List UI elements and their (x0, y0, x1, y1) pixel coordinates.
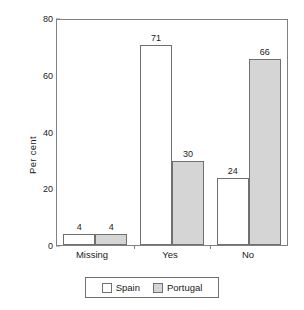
x-axis-label-yes: Yes (162, 250, 178, 260)
bar-yes-portugal: 30 (172, 161, 204, 245)
y-axis-tick-80: 80 (43, 15, 56, 24)
bar-value-no-spain: 24 (228, 167, 238, 176)
x-axis-separator-tick (134, 245, 135, 249)
y-axis-tick-label-40: 40 (43, 128, 56, 137)
bar-yes-spain: 71 (140, 45, 172, 245)
plot-area: 4471302466 (56, 19, 288, 246)
x-axis-label-missing: Missing (76, 250, 108, 260)
legend-entry-spain: Spain (102, 283, 140, 293)
y-axis-tick-60: 60 (43, 71, 56, 80)
bar-value-missing-spain: 4 (77, 223, 82, 232)
bar-value-yes-portugal: 30 (183, 150, 193, 159)
y-axis-tick-label-0: 0 (48, 242, 56, 251)
legend-swatch-portugal-icon (153, 283, 163, 293)
y-axis-tick-label-80: 80 (43, 15, 56, 24)
y-axis-title: Per cent (27, 136, 38, 174)
legend-swatch-spain-icon (102, 283, 112, 293)
bar-missing-spain: 4 (63, 234, 95, 245)
bar-value-missing-portugal: 4 (109, 223, 114, 232)
legend-label-spain: Spain (116, 283, 140, 293)
bar-value-yes-spain: 71 (151, 34, 161, 43)
bar-chart: Per cent 80 60 40 20 0 4471302466 Missin… (0, 0, 304, 310)
bars-layer: 4471302466 (57, 20, 287, 245)
x-axis-label-no: No (242, 250, 254, 260)
bar-missing-portugal: 4 (95, 234, 127, 245)
y-axis-tick-label-60: 60 (43, 71, 56, 80)
bar-value-no-portugal: 66 (260, 48, 270, 57)
legend-entry-portugal: Portugal (153, 283, 202, 293)
y-axis-tick-label-20: 20 (43, 185, 56, 194)
legend-label-portugal: Portugal (167, 283, 202, 293)
x-axis-separator-tick (210, 245, 211, 249)
bar-no-spain: 24 (217, 178, 249, 246)
y-axis-tick-40: 40 (43, 128, 56, 137)
bar-no-portugal: 66 (249, 59, 281, 245)
y-axis-tick-20: 20 (43, 185, 56, 194)
legend: Spain Portugal (85, 277, 219, 298)
y-axis-tick-0: 0 (48, 242, 56, 251)
